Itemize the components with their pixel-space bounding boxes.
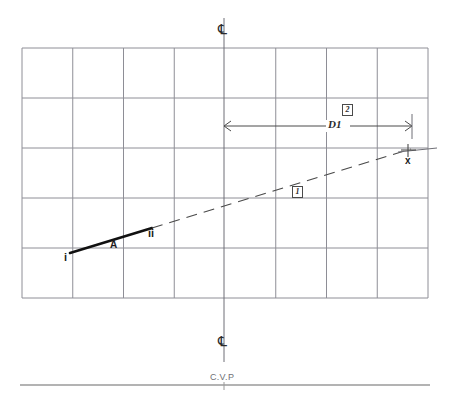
target-point-label-x: x	[405, 156, 411, 166]
point-label-i: i	[64, 252, 67, 263]
grid-group	[22, 48, 428, 298]
baseline-label-cvp: C.V.P	[210, 373, 234, 382]
dashed-projection-line	[152, 149, 411, 228]
target-extension-group	[398, 144, 437, 157]
dimension-arrow-left-icon	[224, 121, 231, 126]
centerline-symbol-top: ℄	[218, 23, 227, 37]
dimension-arrow-right-icon	[405, 121, 412, 126]
segment-label-a: A	[110, 240, 117, 250]
callout-box-1: 1	[292, 186, 303, 198]
dashed-projection-group	[152, 149, 411, 228]
dimension-arrow-right-icon	[405, 126, 412, 131]
technical-drawing-canvas: ℄ ℄ i A ii 1 2 D1 x C.V.P	[0, 0, 450, 395]
baseline-group	[20, 382, 430, 390]
point-label-ii: ii	[148, 228, 154, 239]
dimension-d1-group	[224, 114, 412, 139]
dimension-label-d1: D1	[328, 119, 341, 130]
callout-box-2: 2	[342, 104, 353, 116]
dimension-arrow-left-icon	[224, 126, 231, 131]
centerline-symbol-bottom: ℄	[218, 335, 227, 349]
